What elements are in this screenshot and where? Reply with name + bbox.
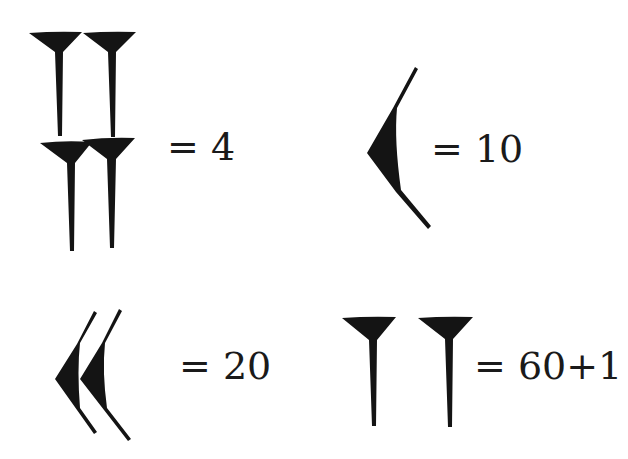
- label-sixty-one: = 60+1: [474, 347, 622, 385]
- vertical-wedge-icon: [40, 141, 92, 251]
- cuneiform-diagram: [0, 0, 628, 459]
- corner-wedge-icon: [367, 67, 431, 229]
- vertical-wedge-icon: [82, 138, 135, 248]
- vertical-wedge-icon: [83, 32, 136, 137]
- glyph-twenty: [55, 309, 131, 441]
- label-twenty: = 20: [179, 347, 271, 385]
- vertical-wedge-icon: [418, 317, 473, 427]
- glyph-ten: [367, 67, 431, 229]
- glyph-four: [29, 32, 136, 251]
- vertical-wedge-icon: [29, 32, 82, 136]
- vertical-wedge-icon: [342, 317, 396, 426]
- label-four: = 4: [167, 128, 235, 166]
- glyph-sixty-one: [342, 317, 473, 427]
- label-ten: = 10: [431, 130, 523, 168]
